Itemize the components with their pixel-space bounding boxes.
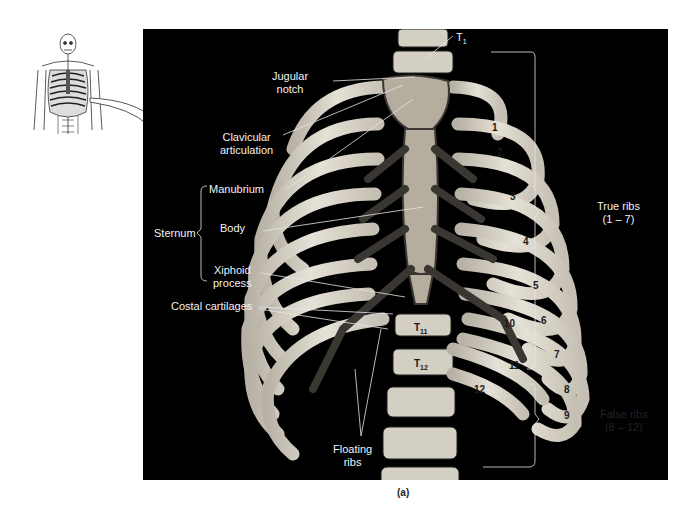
label-floating-ribs: Floatingribs: [333, 443, 372, 469]
label-manubrium: Manubrium: [209, 183, 264, 196]
rib-cage-illustration: [143, 29, 668, 480]
rib-number-5: 5: [533, 281, 539, 291]
label-false-ribs: False ribs(8 – 12): [600, 408, 648, 434]
rib-number-7: 7: [554, 350, 560, 360]
rib-number-9: 9: [564, 411, 570, 421]
label-jugular-notch: Jugularnotch: [272, 70, 308, 96]
label-costal-cartilages: Costal cartilages: [171, 300, 252, 313]
rib-number-12: 12: [474, 385, 485, 395]
label-true-ribs: True ribs(1 – 7): [597, 200, 640, 226]
rib-number-4: 4: [523, 237, 529, 247]
rib-number-1: 1: [492, 123, 498, 133]
label-body: Body: [220, 222, 245, 235]
vertebra-t12: T12: [414, 359, 428, 373]
rib-number-11: 11: [509, 361, 520, 371]
vertebra-t11: T11: [414, 323, 428, 337]
rib-number-2: 2: [497, 148, 503, 158]
thoracic-cage-photo: [143, 29, 668, 480]
label-xiphoid-process: Xiphoidprocess: [213, 264, 252, 290]
rib-number-10: 10: [504, 319, 515, 329]
figure-caption: (a): [397, 487, 409, 498]
rib-number-8: 8: [564, 385, 570, 395]
rib-number-6: 6: [541, 316, 547, 326]
rib-number-3: 3: [510, 192, 516, 202]
label-clavicular-articulation: Claviculararticulation: [220, 131, 273, 157]
label-t1: T1: [456, 31, 467, 48]
label-sternum: Sternum: [154, 227, 196, 240]
